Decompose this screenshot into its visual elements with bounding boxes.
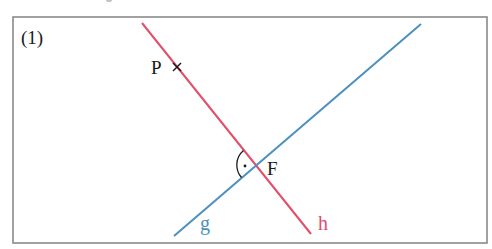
point-p-label: P bbox=[151, 58, 162, 77]
geometry-figure bbox=[0, 0, 492, 249]
right-angle-dot-icon bbox=[244, 165, 247, 168]
figure-frame bbox=[13, 17, 487, 243]
figure-number-label: (1) bbox=[21, 28, 43, 47]
point-p-cross-icon bbox=[173, 63, 181, 71]
line-h-label: h bbox=[318, 213, 328, 233]
line-g bbox=[174, 24, 421, 236]
diagram-canvas: (1) P F g h bbox=[0, 0, 492, 249]
line-g-label: g bbox=[200, 213, 210, 233]
right-angle-arc-icon bbox=[237, 151, 244, 178]
line-h bbox=[142, 23, 311, 234]
point-f-label: F bbox=[267, 159, 278, 178]
